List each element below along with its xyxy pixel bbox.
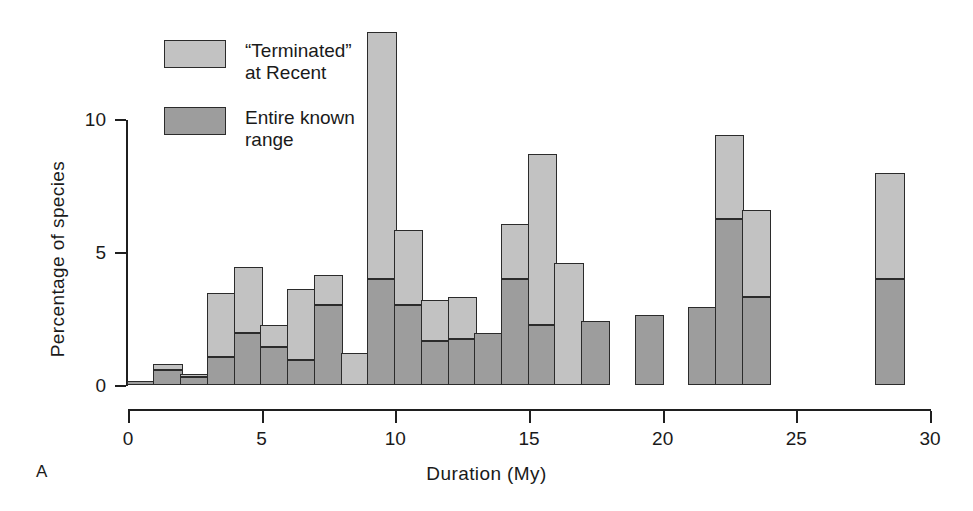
bar-segment-entire-range: [474, 333, 503, 385]
bar-segment-entire-range: [153, 370, 182, 385]
histogram-bar: [689, 307, 716, 385]
bar-segment-terminated: [314, 275, 343, 306]
y-axis-tick: [115, 119, 126, 121]
bar-segment-terminated: [287, 289, 316, 359]
y-axis-tick: [115, 385, 126, 387]
histogram-bar: [716, 135, 743, 385]
bar-segment-terminated: [207, 293, 236, 357]
y-axis-tick-label: 0: [66, 376, 106, 395]
bar-segment-terminated: [715, 135, 744, 219]
bar-segment-entire-range: [715, 219, 744, 385]
histogram-bar: [155, 364, 182, 385]
panel-label: A: [36, 462, 47, 482]
x-axis-tick-label: 15: [507, 428, 551, 450]
histogram-bar: [556, 263, 583, 385]
bar-segment-entire-range: [180, 377, 209, 385]
bar-segment-entire-range: [287, 360, 316, 385]
x-axis-tick: [930, 411, 932, 423]
histogram-bar: [369, 32, 396, 385]
bar-segment-terminated: [554, 263, 583, 385]
x-axis-label: Duration (My): [0, 463, 973, 485]
histogram-bar: [877, 173, 904, 385]
histogram-bar: [422, 300, 449, 385]
y-axis-tick: [115, 252, 126, 254]
x-axis-tick: [663, 411, 665, 423]
histogram-bar: [181, 374, 208, 385]
bar-segment-terminated: [448, 297, 477, 338]
bar-segment-entire-range: [127, 381, 156, 385]
figure-panel-a: Percentage of species “Terminated” at Re…: [0, 0, 973, 511]
bar-segment-entire-range: [742, 297, 771, 385]
bar-segment-entire-range: [207, 357, 236, 385]
bar-segment-terminated: [260, 325, 289, 346]
bar-segment-terminated: [153, 364, 182, 371]
x-axis-tick-label: 10: [373, 428, 417, 450]
plot-area: [128, 0, 930, 386]
histogram-bar: [395, 230, 422, 385]
bar-segment-entire-range: [314, 305, 343, 385]
bar-segment-entire-range: [394, 305, 423, 385]
histogram-bar: [636, 315, 663, 385]
bar-segment-entire-range: [501, 279, 530, 385]
histogram-bar: [128, 381, 155, 385]
bar-segment-terminated: [367, 32, 396, 279]
x-axis-tick: [395, 411, 397, 423]
bar-series-container: [128, 0, 930, 385]
x-axis-tick-label: 25: [774, 428, 818, 450]
x-axis-tick-label: 30: [908, 428, 952, 450]
histogram-bar: [529, 154, 556, 385]
x-axis-tick: [128, 411, 130, 423]
histogram-bar: [315, 275, 342, 385]
bar-segment-entire-range: [581, 321, 610, 385]
histogram-bar: [449, 297, 476, 385]
histogram-bar: [743, 210, 770, 385]
bar-segment-entire-range: [448, 339, 477, 385]
x-axis-tick-label: 0: [106, 428, 150, 450]
x-axis-tick: [262, 411, 264, 423]
bar-segment-terminated: [234, 267, 263, 333]
bar-segment-terminated: [875, 173, 904, 279]
x-axis-tick-label: 20: [641, 428, 685, 450]
histogram-bar: [208, 293, 235, 385]
histogram-bar: [262, 325, 289, 385]
bar-segment-terminated: [180, 374, 209, 377]
bar-segment-entire-range: [234, 333, 263, 385]
x-axis-tick-label: 5: [240, 428, 284, 450]
bar-segment-entire-range: [875, 279, 904, 385]
bar-segment-entire-range: [260, 347, 289, 386]
bar-segment-terminated: [528, 154, 557, 325]
bar-segment-terminated: [421, 300, 450, 341]
bar-segment-entire-range: [635, 315, 664, 385]
histogram-bar: [476, 333, 503, 385]
histogram-bar: [342, 353, 369, 385]
y-axis-tick-label: 5: [66, 243, 106, 262]
histogram-bar: [288, 289, 315, 385]
bar-segment-terminated: [501, 224, 530, 278]
x-axis-tick: [529, 411, 531, 423]
bar-segment-entire-range: [421, 341, 450, 385]
bar-segment-entire-range: [528, 325, 557, 385]
bar-segment-entire-range: [367, 279, 396, 385]
histogram-bar: [582, 321, 609, 385]
x-axis-tick: [796, 411, 798, 423]
histogram-bar: [235, 267, 262, 385]
bar-segment-entire-range: [688, 307, 717, 385]
histogram-bar: [502, 224, 529, 385]
bar-segment-terminated: [394, 230, 423, 306]
y-axis-tick-label: 10: [66, 110, 106, 129]
bar-segment-terminated: [341, 353, 370, 385]
bar-segment-terminated: [742, 210, 771, 298]
